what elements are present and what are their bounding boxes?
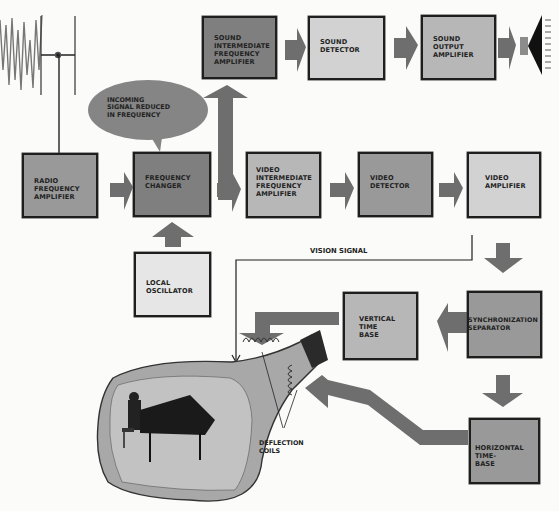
block-radio-frequency-amplifier: RADIO FREQUENCY AMPLIFIER <box>22 153 98 218</box>
block-sound-detector: SOUND DETECTOR <box>308 16 385 80</box>
block-video-intermediate-frequency-amplifier: VIDEO INTERMEDIATE FREQUENCY AMPLIFIER <box>246 152 321 218</box>
block-label: SOUND DETECTOR <box>320 38 360 54</box>
block-video-amplifier: VIDEO AMPLIFIER <box>467 152 541 218</box>
block-label: LOCAL OSCILLATOR <box>146 279 193 295</box>
block-label: FREQUENCY CHANGER <box>145 174 191 190</box>
block-frequency-changer: FREQUENCY CHANGER <box>133 152 211 217</box>
block-label: RADIO FREQUENCY AMPLIFIER <box>34 177 80 201</box>
block-label: VIDEO INTERMEDIATE FREQUENCY AMPLIFIER <box>256 166 312 198</box>
speech-bubble-text: INCOMING SIGNAL REDUCED IN FREQUENCY <box>107 97 170 119</box>
block-horizontal-time-base: HORIZONTAL TIME- BASE <box>469 418 540 484</box>
block-sound-output-amplifier: SOUND OUTPUT AMPLIFIER <box>421 15 496 80</box>
picture-tube-icon <box>97 330 328 501</box>
block-vertical-time-base: VERTICAL TIME BASE <box>343 292 418 360</box>
block-local-oscillator: LOCAL OSCILLATOR <box>134 252 211 317</box>
block-video-detector: VIDEO DETECTOR <box>358 152 433 217</box>
block-label: VERTICAL TIME BASE <box>359 315 395 339</box>
block-label: VIDEO DETECTOR <box>370 174 410 190</box>
block-label: SYNCHRONIZATION SEPARATOR <box>468 316 538 332</box>
block-label: SOUND OUTPUT AMPLIFIER <box>433 35 474 59</box>
vision-signal-label: VISION SIGNAL <box>310 247 367 255</box>
block-label: SOUND INTERMEDIATE FREQUENCY AMPLIFIER <box>214 34 270 66</box>
block-synchronization-separator: SYNCHRONIZATION SEPARATOR <box>467 291 542 358</box>
antenna-icon <box>0 15 75 153</box>
block-sound-intermediate-frequency-amplifier: SOUND INTERMEDIATE FREQUENCY AMPLIFIER <box>202 16 277 79</box>
block-label: VIDEO AMPLIFIER <box>485 174 526 190</box>
block-label: HORIZONTAL TIME- BASE <box>475 444 524 468</box>
deflection-coils-label: DEFLECTION COILS <box>259 439 304 455</box>
speaker-icon <box>520 15 551 75</box>
